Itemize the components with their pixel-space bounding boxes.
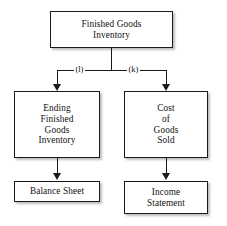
- node-balance-sheet-line1: Balance Sheet: [15, 186, 99, 197]
- arrowhead-to-balance-sheet: [53, 173, 61, 180]
- node-cogs-line3: Goods: [125, 125, 207, 136]
- arrowhead-to-ending-inventory: [53, 84, 61, 91]
- node-ending-finished-goods-inventory: EndingFinishedGoodsInventory: [14, 91, 100, 158]
- node-finished-goods-inventory-line1: Finished Goods: [51, 19, 172, 30]
- node-finished-goods-inventory-text: Finished GoodsInventory: [51, 19, 172, 41]
- node-cogs-line1: Cost: [125, 103, 207, 114]
- node-income-statement-line1: Income: [125, 187, 207, 198]
- node-ending-line3: Goods: [15, 125, 99, 136]
- node-income-statement: IncomeStatement: [124, 181, 208, 214]
- node-cogs-line4: Sold: [125, 135, 207, 146]
- node-cost-of-goods-sold-text: CostofGoodsSold: [125, 103, 207, 147]
- arrowhead-to-income-statement: [162, 173, 170, 180]
- node-balance-sheet-text: Balance Sheet: [15, 186, 99, 197]
- arrowhead-to-cost-of-goods-sold: [162, 84, 170, 91]
- node-income-statement-line2: Statement: [125, 198, 207, 209]
- node-ending-line2: Finished: [15, 114, 99, 125]
- edge-label-right: (k): [127, 65, 140, 75]
- node-finished-goods-inventory: Finished GoodsInventory: [50, 11, 173, 48]
- node-finished-goods-inventory-line2: Inventory: [51, 30, 172, 41]
- connector-cogs-to-income-statement: [166, 158, 167, 174]
- node-cost-of-goods-sold: CostofGoodsSold: [124, 91, 208, 158]
- node-balance-sheet: Balance Sheet: [14, 181, 100, 202]
- node-ending-line1: Ending: [15, 103, 99, 114]
- node-ending-finished-goods-inventory-text: EndingFinishedGoodsInventory: [15, 103, 99, 147]
- connector-ending-to-balance-sheet: [57, 158, 58, 174]
- node-cogs-line2: of: [125, 114, 207, 125]
- node-income-statement-text: IncomeStatement: [125, 187, 207, 209]
- edge-label-left: (l): [74, 65, 85, 75]
- connector-trunk-vertical: [111, 48, 112, 71]
- node-ending-line4: Inventory: [15, 135, 99, 146]
- diagram-canvas: Finished GoodsInventory (l) (k) EndingFi…: [0, 0, 227, 226]
